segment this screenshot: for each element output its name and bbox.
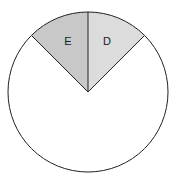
pie-slice-label-e: E xyxy=(64,35,71,47)
pie-chart-svg: E D xyxy=(0,0,176,183)
pie-slice-label-d: D xyxy=(103,35,111,47)
pie-chart-figure: E D xyxy=(0,0,176,183)
